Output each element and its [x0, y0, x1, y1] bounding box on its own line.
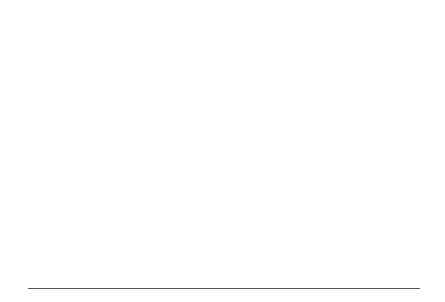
chart-figure: [0, 0, 445, 302]
bottom-divider-rule: [28, 288, 420, 289]
plot-area: [0, 0, 445, 302]
